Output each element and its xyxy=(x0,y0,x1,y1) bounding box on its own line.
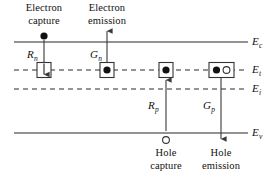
energy-level-label-Ei-subscript: i xyxy=(259,88,261,97)
energy-level-label-Ei: Ei xyxy=(252,82,261,94)
caption-hole-capture-line1: Hole xyxy=(156,147,177,158)
rate-label-Rn-subscript: n xyxy=(34,54,38,63)
rate-label-Gn-symbol: G xyxy=(90,48,98,60)
energy-level-lines xyxy=(14,42,248,133)
caption-hole-emission: Hole emission xyxy=(177,147,265,172)
rate-label-Rp-symbol: R xyxy=(148,99,155,111)
caption-electron-emission-line1: Electron xyxy=(89,2,125,13)
energy-level-label-Et: Et xyxy=(252,63,261,75)
trap-site-1 xyxy=(37,63,51,78)
energy-level-label-Ec-symbol: E xyxy=(252,35,259,47)
energy-level-label-Ev-symbol: E xyxy=(252,126,259,138)
transition-arrows xyxy=(44,31,221,139)
electron-dot-conduction xyxy=(40,32,47,39)
caption-hole-emission-line1: Hole xyxy=(211,147,232,158)
rate-label-Gn: Gn xyxy=(90,48,102,60)
energy-level-label-Ev-subscript: v xyxy=(259,132,262,141)
rate-label-Rp-subscript: p xyxy=(155,105,159,114)
energy-level-label-Ev: Ev xyxy=(252,126,262,138)
energy-level-label-Ec-subscript: c xyxy=(259,41,262,50)
energy-level-label-Ec: Ec xyxy=(252,35,262,47)
caption-electron-capture-line2: capture xyxy=(28,15,60,26)
trap-site-2 xyxy=(100,63,114,78)
energy-level-label-Ei-symbol: E xyxy=(252,82,259,94)
trap-site-4 xyxy=(209,63,234,78)
free-carriers xyxy=(40,32,169,143)
caption-electron-emission: Electron emission xyxy=(63,2,151,27)
rate-label-Rn-symbol: R xyxy=(27,48,34,60)
energy-level-label-Et-subscript: t xyxy=(259,69,261,78)
rate-label-Gp-subscript: p xyxy=(211,105,215,114)
trap-site-3 xyxy=(159,63,173,78)
rate-label-Gp-symbol: G xyxy=(203,99,211,111)
caption-hole-emission-line2: emission xyxy=(202,160,240,171)
rate-label-Rp: Rp xyxy=(148,99,158,111)
rate-label-Rn: Rn xyxy=(27,48,37,60)
energy-level-label-Et-symbol: E xyxy=(252,63,259,75)
rate-label-Gn-subscript: n xyxy=(98,54,102,63)
caption-electron-emission-line2: emission xyxy=(88,15,126,26)
hole-circle-valence xyxy=(163,137,170,144)
rate-label-Gp: Gp xyxy=(203,99,215,111)
caption-electron-capture-line1: Electron xyxy=(26,2,62,13)
band-diagram-figure: Electron capture Electron emission Hole … xyxy=(0,0,278,183)
